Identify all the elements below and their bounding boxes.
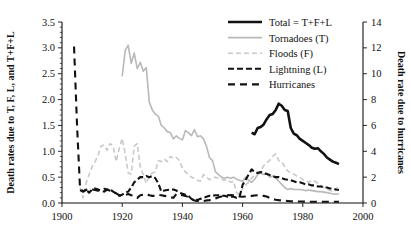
ytick-label-right: 4 bbox=[371, 146, 377, 157]
legend-entry: Total = T+F+L bbox=[228, 17, 332, 28]
ytick-label-right: 0 bbox=[371, 198, 376, 209]
ytick-label-right: 14 bbox=[371, 17, 382, 28]
ytick-label-left: 2.0 bbox=[42, 94, 55, 105]
chart-svg: 0.00.51.01.52.02.53.03.50246810121419001… bbox=[0, 0, 411, 238]
legend-entry: Floods (F) bbox=[228, 48, 314, 60]
legend-entry: Hurricanes bbox=[228, 79, 315, 90]
ytick-label-right: 8 bbox=[371, 94, 376, 105]
xtick-label: 1940 bbox=[172, 211, 193, 222]
xtick-label: 2000 bbox=[353, 211, 374, 222]
xtick-label: 1920 bbox=[112, 211, 133, 222]
xtick-label: 1960 bbox=[232, 211, 253, 222]
ytick-label-left: 1.0 bbox=[42, 146, 55, 157]
legend-label: Hurricanes bbox=[269, 79, 315, 90]
legend-label: Total = T+F+L bbox=[269, 17, 332, 28]
xtick-label: 1980 bbox=[292, 211, 313, 222]
series-line-total-t-f-l bbox=[252, 104, 339, 165]
ytick-label-left: 1.5 bbox=[42, 120, 55, 131]
xtick-label: 1900 bbox=[52, 211, 73, 222]
ytick-label-left: 3.0 bbox=[42, 42, 55, 53]
axis-titles-layer: Death rates due to T, F, L, and T+F+LDea… bbox=[5, 31, 407, 194]
legend-entry: Tornadoes (T) bbox=[228, 33, 329, 45]
legend: Total = T+F+LTornadoes (T)Floods (F)Ligh… bbox=[228, 17, 332, 90]
chart-container: 0.00.51.01.52.02.53.03.50246810121419001… bbox=[0, 0, 411, 238]
legend-label: Floods (F) bbox=[269, 48, 314, 60]
ytick-label-right: 6 bbox=[371, 120, 376, 131]
ytick-label-left: 0.0 bbox=[42, 198, 55, 209]
ytick-label-right: 10 bbox=[371, 68, 382, 79]
ytick-label-right: 2 bbox=[371, 172, 376, 183]
ytick-label-left: 2.5 bbox=[42, 68, 55, 79]
legend-label: Lightning (L) bbox=[269, 64, 327, 76]
axis-frame-left-bottom bbox=[62, 22, 363, 203]
legend-label: Tornadoes (T) bbox=[269, 33, 329, 45]
axes-layer bbox=[58, 22, 367, 207]
ytick-label-left: 0.5 bbox=[42, 172, 55, 183]
ytick-label-right: 12 bbox=[371, 42, 382, 53]
y-axis-title-right: Death rate due to hurricanes bbox=[396, 51, 407, 174]
legend-entry: Lightning (L) bbox=[228, 64, 327, 76]
y-axis-title-left: Death rates due to T, F, L, and T+F+L bbox=[5, 31, 16, 194]
ytick-label-left: 3.5 bbox=[42, 17, 55, 28]
